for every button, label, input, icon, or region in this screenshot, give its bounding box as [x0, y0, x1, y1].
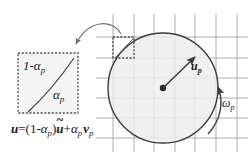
equation-lhs-u: u [11, 121, 18, 136]
label-angular-omega-p: ωp [222, 97, 235, 112]
magnification-callout-arrow [76, 24, 121, 44]
label-velocity-u-p: up [191, 60, 202, 75]
subscript-p: p [78, 128, 82, 138]
u-glyph: u [191, 59, 198, 73]
alpha-glyph: α [53, 87, 60, 102]
subscript-p: p [89, 128, 93, 138]
label-one-minus-alpha-p: 1-αp [23, 59, 45, 75]
blending-equation: u=(1-αp)~u+αp vp [11, 122, 93, 138]
tilde-glyph: ~ [57, 114, 63, 126]
u-tilde-group: ~u [56, 122, 63, 135]
subscript-p: p [230, 103, 234, 112]
alpha-glyph: α [34, 58, 41, 73]
alpha-glyph: α [41, 121, 48, 136]
subscript-p: p [198, 66, 202, 75]
subscript-p: p [48, 128, 52, 138]
subscript-p: p [60, 94, 64, 104]
label-alpha-p: αp [53, 88, 64, 104]
alpha-glyph: α [71, 121, 78, 136]
figure-root: 1-αp αp up ωp u=(1-αp)~u+αp vp [0, 0, 248, 157]
subscript-p: p [41, 65, 45, 75]
